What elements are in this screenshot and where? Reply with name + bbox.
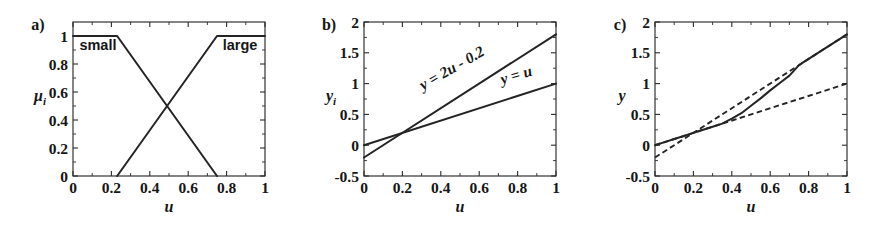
x-tick-label: 0	[69, 179, 77, 196]
x-tick-label: 0.6	[470, 179, 490, 196]
y-tick-label: 1	[351, 75, 359, 92]
x-axis-title: u	[165, 198, 174, 215]
series-1	[117, 36, 265, 176]
y-tick-label: 0.5	[631, 106, 651, 123]
y-tick-label: 0	[642, 137, 650, 154]
plot-b: b)00.20.40.60.81-0.500.511.52uyiy = 2u -…	[291, 0, 582, 229]
x-tick-label: 0.8	[799, 179, 819, 196]
y-tick-label: 0	[60, 168, 68, 185]
panel-tag: a)	[31, 16, 44, 34]
x-tick-label: 0.2	[393, 179, 413, 196]
x-tick-label: 0.2	[684, 179, 704, 196]
x-tick-label: 0.8	[217, 179, 237, 196]
series-2	[655, 84, 847, 146]
panel-a: a)00.20.40.60.8100.20.40.60.81uμismallla…	[0, 0, 291, 229]
figure-container: a)00.20.40.60.8100.20.40.60.81uμismallla…	[0, 0, 873, 229]
x-tick-label: 0	[360, 179, 368, 196]
y-tick-label: 0.2	[49, 140, 69, 157]
panel-b: b)00.20.40.60.81-0.500.511.52uyiy = 2u -…	[291, 0, 582, 229]
panel-c: c)00.20.40.60.81-0.500.511.52uy	[582, 0, 873, 229]
y-axis-title: μi	[33, 87, 47, 107]
axis-ticks	[655, 22, 847, 176]
x-tick-label: 0.4	[722, 179, 742, 196]
y-tick-label: 1	[60, 28, 68, 45]
y-tick-label: 1	[642, 75, 650, 92]
y-tick-label: 2	[642, 14, 650, 31]
x-tick-label: 0.8	[508, 179, 528, 196]
x-tick-label: 0.6	[761, 179, 781, 196]
x-tick-label: 0.6	[179, 179, 199, 196]
y-tick-label: 1.5	[631, 44, 651, 61]
x-tick-label: 0.4	[431, 179, 451, 196]
y-tick-label: -0.5	[334, 168, 359, 185]
x-axis-title: u	[747, 198, 756, 215]
y-tick-label: 0	[351, 137, 359, 154]
x-tick-label: 1	[843, 179, 851, 196]
panel-tag: b)	[322, 16, 336, 34]
x-tick-label: 0	[651, 179, 659, 196]
y-tick-label: 0.6	[49, 84, 69, 101]
y-tick-label: -0.5	[625, 168, 650, 185]
panel-tag: c)	[614, 16, 626, 34]
series-1	[364, 84, 556, 146]
x-tick-label: 0.2	[102, 179, 122, 196]
x-tick-label: 0.4	[140, 179, 160, 196]
plot-frame	[364, 22, 556, 176]
y-axis-title: y	[616, 87, 626, 105]
y-axis-title: yi	[324, 87, 337, 107]
plot-a: a)00.20.40.60.8100.20.40.60.81uμismallla…	[0, 0, 291, 229]
plot-frame	[655, 22, 847, 176]
plot-annotation: y = u	[496, 62, 534, 88]
y-tick-label: 0.8	[49, 56, 69, 73]
y-tick-label: 0.5	[340, 106, 360, 123]
plot-annotation: large	[223, 37, 258, 53]
axis-ticks	[364, 22, 556, 176]
series-0	[655, 34, 847, 145]
y-tick-label: 2	[351, 14, 359, 31]
x-tick-label: 1	[552, 179, 560, 196]
x-axis-title: u	[456, 198, 465, 215]
x-tick-label: 1	[261, 179, 269, 196]
y-tick-label: 1.5	[340, 44, 360, 61]
y-tick-label: 0.4	[49, 112, 69, 129]
plot-annotation: small	[79, 37, 116, 53]
plot-c: c)00.20.40.60.81-0.500.511.52uy	[582, 0, 873, 229]
series-0	[73, 36, 217, 176]
